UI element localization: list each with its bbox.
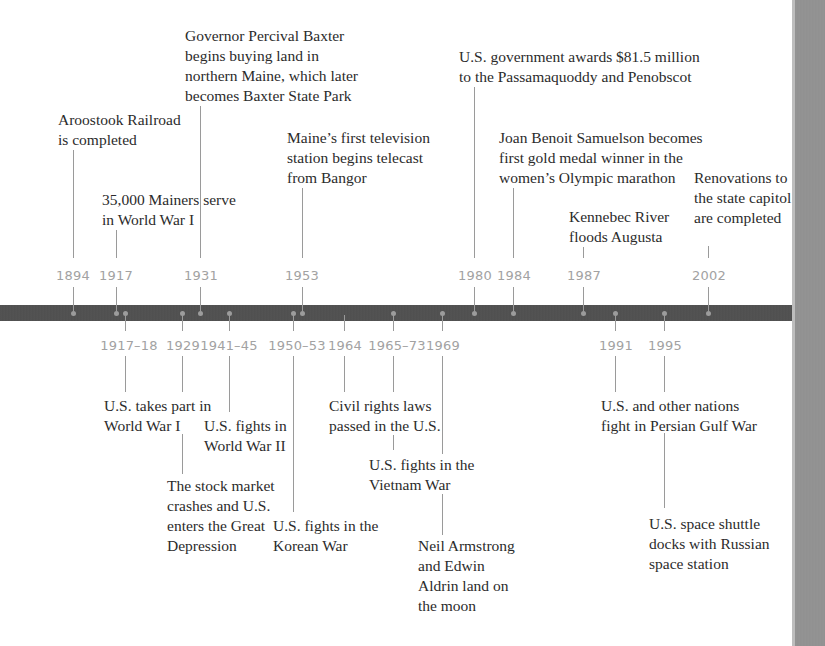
connector-1995-label-lower xyxy=(664,433,665,508)
connector-1969-label-lower xyxy=(442,494,443,535)
year-1929: 1929 xyxy=(166,338,200,353)
connector-1964-bar xyxy=(344,315,345,331)
event-1917-18: U.S. takes part in World War I xyxy=(104,396,211,436)
marker-1931 xyxy=(198,311,203,316)
connector-1969-bar xyxy=(442,315,443,331)
event-1953: Maine’s first television station begins … xyxy=(287,128,430,188)
event-1969: Neil Armstrong and Edwin Aldrin land on … xyxy=(418,536,515,616)
event-1965-73: U.S. fights in the Vietnam War xyxy=(369,455,475,495)
connector-1917-18-bar xyxy=(125,315,126,331)
connector-1991-label xyxy=(615,356,616,392)
connector-1987-label xyxy=(583,247,584,258)
connector-1929-label-lower xyxy=(182,434,183,474)
event-1980: U.S. government awards $81.5 million to … xyxy=(459,47,700,87)
connector-1894-bar xyxy=(73,287,74,311)
marker-1984 xyxy=(511,311,516,316)
connector-1931-label xyxy=(200,106,201,258)
connector-2002-bar xyxy=(708,287,709,311)
connector-1965-73-bar xyxy=(393,315,394,331)
marker-1980 xyxy=(472,311,477,316)
event-1964: Civil rights laws passed in the U.S. xyxy=(329,396,441,436)
connector-1980-label xyxy=(474,87,475,258)
connector-1917-18-label xyxy=(125,356,126,392)
connector-1965-73-label-lower xyxy=(393,435,394,450)
year-1969: 1969 xyxy=(426,338,460,353)
connector-1987-bar xyxy=(583,287,584,311)
year-1953: 1953 xyxy=(285,268,319,283)
year-2002: 2002 xyxy=(692,268,726,283)
connector-1950-53-bar xyxy=(293,315,294,331)
year-1965-73: 1965–73 xyxy=(368,338,426,353)
connector-1953-label xyxy=(302,188,303,258)
connector-1969-label-upper xyxy=(442,356,443,454)
connector-1995-label-upper xyxy=(664,356,665,392)
marker-1917 xyxy=(114,311,119,316)
event-1987: Kennebec River floods Augusta xyxy=(569,207,669,247)
connector-1894-label xyxy=(73,150,74,258)
connector-1980-bar xyxy=(474,287,475,311)
connector-1964-label xyxy=(344,356,345,392)
year-1950-53: 1950–53 xyxy=(268,338,326,353)
connector-1984-label xyxy=(513,188,514,258)
marker-1953 xyxy=(300,311,305,316)
connector-1941-45-label xyxy=(229,356,230,412)
connector-2002-label xyxy=(708,246,709,258)
connector-1965-73-label-upper xyxy=(393,356,394,392)
event-1995: U.S. space shuttle docks with Russian sp… xyxy=(649,514,770,574)
connector-1941-45-bar xyxy=(229,315,230,331)
year-1917: 1917 xyxy=(99,268,133,283)
connector-1929-bar xyxy=(182,315,183,331)
year-1894: 1894 xyxy=(56,268,90,283)
event-1984: Joan Benoit Samuelson becomes first gold… xyxy=(499,128,703,188)
connector-1953-bar xyxy=(302,287,303,311)
year-1995: 1995 xyxy=(648,338,682,353)
year-1980: 1980 xyxy=(458,268,492,283)
event-1894: Aroostook Railroad is completed xyxy=(58,110,181,150)
connector-1917-label xyxy=(116,230,117,258)
page-edge xyxy=(792,0,825,646)
connector-1950-53-label xyxy=(293,356,294,512)
connector-1984-bar xyxy=(513,287,514,311)
event-1950-53: U.S. fights in the Korean War xyxy=(273,516,379,556)
marker-2002 xyxy=(706,311,711,316)
connector-1931-bar xyxy=(200,287,201,311)
year-1984: 1984 xyxy=(497,268,531,283)
year-1941-45: 1941–45 xyxy=(200,338,258,353)
event-1941-45: U.S. fights in World War II xyxy=(204,416,287,456)
marker-1894 xyxy=(71,311,76,316)
connector-1991-bar xyxy=(615,315,616,331)
year-1917-18: 1917–18 xyxy=(100,338,158,353)
event-1991: U.S. and other nations fight in Persian … xyxy=(601,396,757,436)
event-1929: The stock market crashes and U.S. enters… xyxy=(167,476,275,556)
year-1964: 1964 xyxy=(328,338,362,353)
year-1987: 1987 xyxy=(567,268,601,283)
year-1931: 1931 xyxy=(184,268,218,283)
year-1991: 1991 xyxy=(599,338,633,353)
connector-1995-bar xyxy=(664,315,665,331)
event-1931: Governor Percival Baxter begins buying l… xyxy=(185,26,358,106)
marker-1987 xyxy=(581,311,586,316)
connector-1917-bar xyxy=(116,287,117,311)
connector-1929-label-upper xyxy=(182,356,183,392)
event-1917: 35,000 Mainers serve in World War I xyxy=(102,190,236,230)
event-2002: Renovations to the state capitol are com… xyxy=(694,168,791,228)
